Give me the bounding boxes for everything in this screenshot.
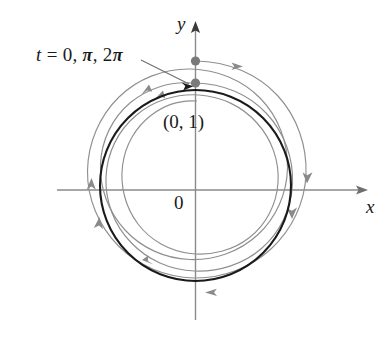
point-coordinate-label: (0, 1) (163, 111, 204, 133)
y-axis-label: y (177, 13, 185, 35)
x-axis-label: x (366, 196, 374, 218)
leader-line (141, 60, 189, 84)
parameter-label-pi-first: π (83, 45, 93, 65)
direction-arrow-bottom-left-icon (142, 255, 154, 264)
direction-arrow-bottom-icon (205, 289, 217, 296)
direction-arrow-top-left-outer-icon (142, 85, 153, 95)
direction-arrow-right-upper-icon (303, 172, 313, 183)
parameter-label-equals: = 0, (42, 44, 83, 65)
parameter-label-comma: , 2 (93, 44, 113, 65)
parameter-label: t = 0, π, 2π (36, 44, 123, 66)
figure-canvas: t = 0, π, 2π (0, 1) 0 x y (0, 0, 389, 342)
point-marker-outer (191, 56, 200, 65)
point-marker-on-circle (191, 78, 200, 87)
origin-label: 0 (174, 192, 184, 214)
parameter-label-pi-second: π (113, 45, 123, 65)
